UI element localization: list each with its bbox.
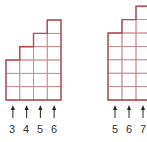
grid-cell xyxy=(136,73,147,86)
grid-cell xyxy=(136,6,147,19)
grid-cell xyxy=(6,60,20,73)
grid-cell xyxy=(136,33,147,46)
staircase-outline xyxy=(108,0,147,100)
grid-cell xyxy=(136,20,147,33)
grid-cell xyxy=(122,46,136,59)
grid-cell xyxy=(34,47,48,60)
staircase-diagram xyxy=(0,0,147,142)
arrow-head-icon xyxy=(127,105,131,110)
grid-cell xyxy=(47,20,61,33)
grid-cell xyxy=(108,87,122,100)
column-label-right-3: 7 xyxy=(136,123,147,135)
grid-cell xyxy=(20,73,34,86)
grid-cell xyxy=(108,33,122,46)
grid-cell xyxy=(34,73,48,86)
grid-cell xyxy=(20,87,34,100)
arrow-head-icon xyxy=(52,105,56,110)
grid-cell xyxy=(122,20,136,33)
grid-cell xyxy=(108,60,122,73)
grid-cell xyxy=(34,33,48,46)
column-label-left-3: 5 xyxy=(33,123,47,135)
grid-cell xyxy=(34,87,48,100)
grid-cell xyxy=(47,87,61,100)
grid-cell xyxy=(6,73,20,86)
column-label-right-2: 6 xyxy=(122,123,136,135)
grid-cell xyxy=(122,60,136,73)
grid-cell xyxy=(47,60,61,73)
column-label-left-1: 3 xyxy=(5,123,19,135)
grid-cell xyxy=(108,73,122,86)
grid-cell xyxy=(6,87,20,100)
grid-cell xyxy=(47,47,61,60)
grid-cell xyxy=(136,60,147,73)
grid-cell xyxy=(122,73,136,86)
grid-cell xyxy=(122,33,136,46)
grid-cell xyxy=(122,87,136,100)
grid-cell xyxy=(20,47,34,60)
column-label-right-1: 5 xyxy=(108,123,122,135)
arrow-head-icon xyxy=(11,105,15,110)
arrow-head-icon xyxy=(113,105,117,110)
grid-cell xyxy=(20,60,34,73)
column-label-left-4: 6 xyxy=(47,123,61,135)
grid-cell xyxy=(108,46,122,59)
grid-cell xyxy=(136,87,147,100)
arrow-head-icon xyxy=(141,105,145,110)
column-label-left-2: 4 xyxy=(19,123,33,135)
arrow-head-icon xyxy=(38,105,42,110)
grid-cell xyxy=(47,33,61,46)
grid-cell xyxy=(47,73,61,86)
grid-cell xyxy=(34,60,48,73)
arrow-head-icon xyxy=(25,105,29,110)
grid-cell xyxy=(136,46,147,59)
